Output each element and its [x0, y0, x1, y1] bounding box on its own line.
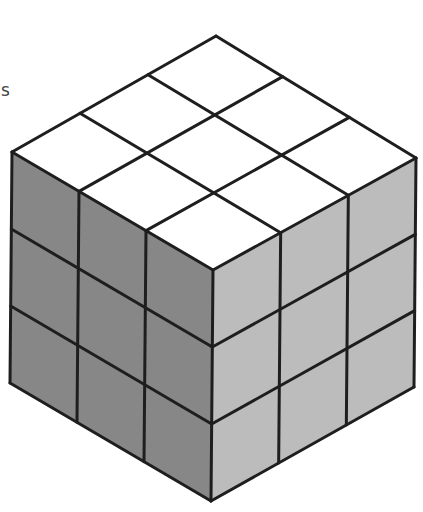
cube-edge	[10, 152, 12, 383]
right-face-grid-line	[279, 233, 281, 463]
cube-edge	[414, 158, 416, 387]
cube-diagram	[0, 0, 423, 512]
left-face-grid-line	[144, 231, 146, 462]
cube-edge	[211, 270, 213, 501]
right-face-grid-line	[346, 195, 348, 425]
left-face-grid-line	[77, 191, 79, 422]
